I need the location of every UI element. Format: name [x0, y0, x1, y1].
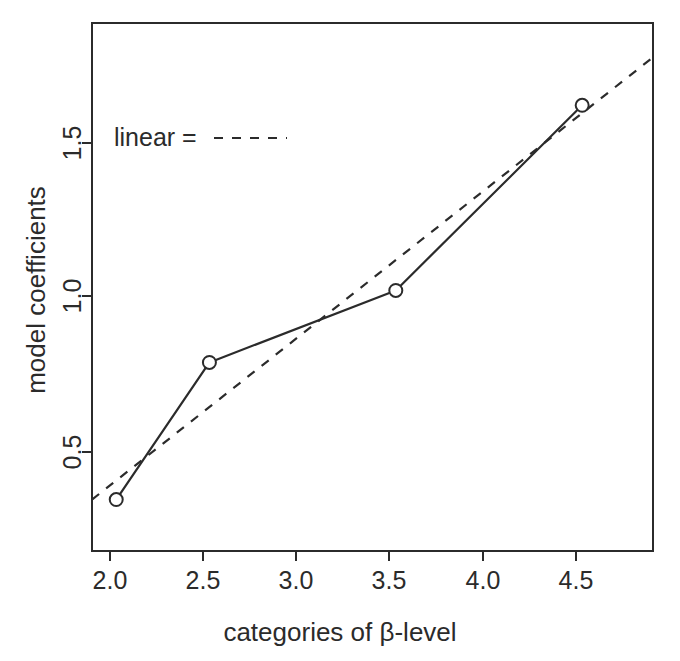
- x-tick-label-2-5: 2.5: [186, 566, 221, 594]
- data-point-marker: [389, 284, 402, 297]
- data-point-marker: [110, 493, 123, 506]
- data-point-marker: [576, 99, 589, 112]
- y-tick-label-1-5: 1.5: [58, 126, 86, 161]
- chart-canvas: 0.5 1.0 1.5 model coefficients 2.0 2.5 3…: [0, 0, 680, 661]
- x-axis-title: categories of β-level: [223, 617, 456, 647]
- x-tick-label-2-0: 2.0: [93, 566, 128, 594]
- legend-label-linear: linear =: [114, 123, 197, 151]
- y-tick-label-1-0: 1.0: [58, 279, 86, 314]
- x-tick-label-3-5: 3.5: [372, 566, 407, 594]
- y-axis-title: model coefficients: [21, 186, 51, 394]
- x-tick-label-4-5: 4.5: [559, 566, 594, 594]
- y-tick-label-0-5: 0.5: [58, 435, 86, 470]
- chart-figure: 0.5 1.0 1.5 model coefficients 2.0 2.5 3…: [0, 0, 680, 661]
- data-point-marker: [203, 356, 216, 369]
- x-axis-ticks: [110, 551, 576, 561]
- plot-frame: [92, 23, 653, 551]
- x-tick-label-3-0: 3.0: [279, 566, 314, 594]
- model-coefficients-line: [116, 105, 582, 499]
- data-point-markers: [110, 99, 589, 506]
- x-tick-label-4-0: 4.0: [466, 566, 501, 594]
